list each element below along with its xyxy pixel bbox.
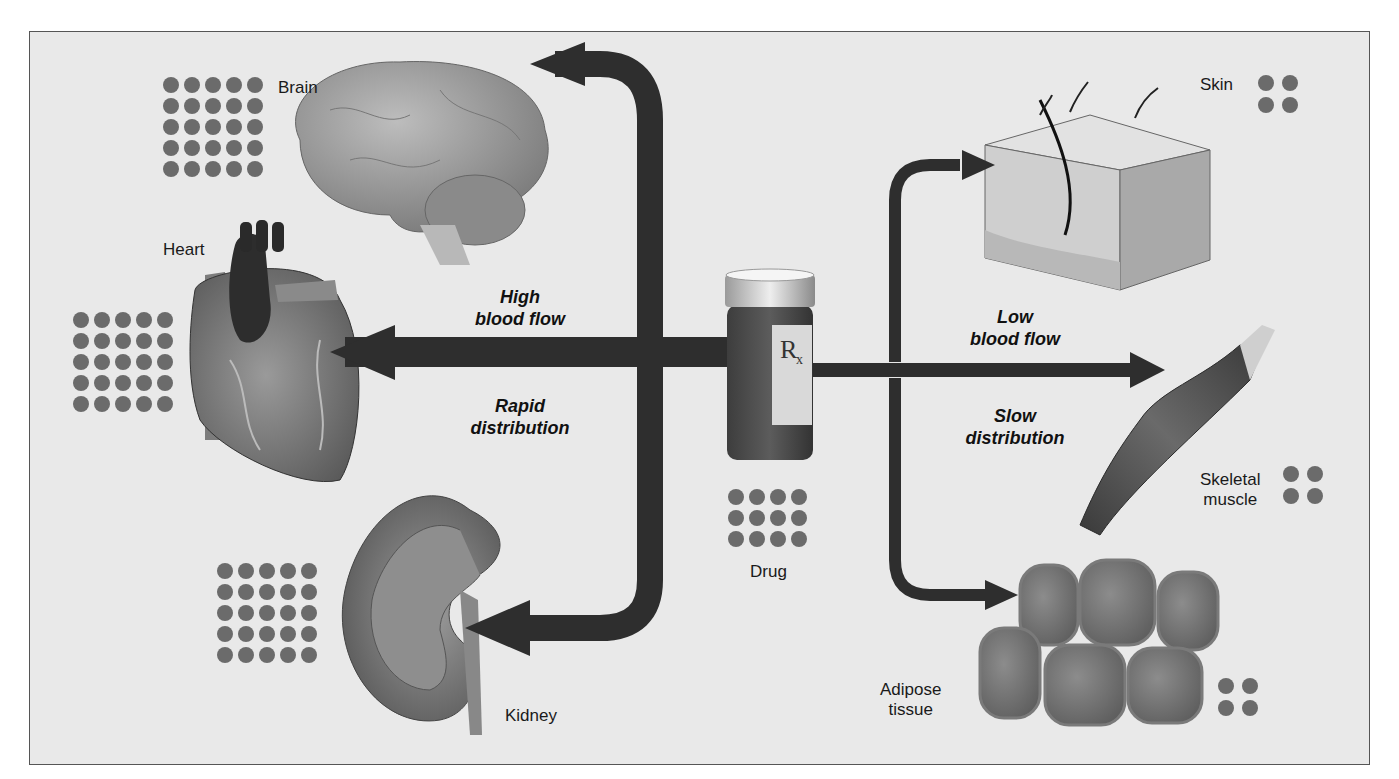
drug-molecule-dot [301, 626, 317, 642]
drug-molecule-dot [749, 510, 765, 526]
drug-molecule-dot [157, 333, 173, 349]
drug-molecule-dot [226, 119, 242, 135]
drug-molecule-dot [301, 584, 317, 600]
drug-molecule-dot [217, 605, 233, 621]
drug-molecule-dot [280, 605, 296, 621]
drug-molecule-dot [280, 563, 296, 579]
heart-concentration-dots [73, 312, 173, 412]
drug-molecule-dot [280, 584, 296, 600]
drug-molecule-dot [136, 333, 152, 349]
drug-molecule-dot [247, 77, 263, 93]
brain-label: Brain [278, 78, 318, 98]
drug-molecule-dot [184, 98, 200, 114]
drug-molecule-dot [94, 354, 110, 370]
adipose-tissue-label: Adipose tissue [880, 680, 941, 720]
drug-molecule-dot [73, 312, 89, 328]
heart-label: Heart [163, 240, 205, 260]
drug-molecule-dot [1242, 700, 1258, 716]
adipose-tissue-illustration [980, 560, 1218, 725]
slow-distribution-text: Slow distribution [915, 405, 1115, 449]
drug-molecule-dot [226, 161, 242, 177]
drug-molecule-dot [73, 354, 89, 370]
drug-molecule-dot [1307, 466, 1323, 482]
arrowhead-brain [530, 42, 585, 86]
drug-molecule-dot [136, 375, 152, 391]
drug-molecule-dot [247, 98, 263, 114]
drug-molecule-dot [728, 531, 744, 547]
skeletal-muscle-label-line2: muscle [1200, 490, 1260, 510]
drug-molecule-dot [94, 375, 110, 391]
drug-molecule-dot [259, 563, 275, 579]
drug-molecule-dot [1283, 466, 1299, 482]
drug-molecule-dot [184, 77, 200, 93]
skeletal-muscle-concentration-dots [1283, 466, 1323, 504]
drug-molecule-dot [94, 333, 110, 349]
drug-molecule-dot [136, 396, 152, 412]
drug-molecule-dot [184, 140, 200, 156]
skin-label: Skin [1200, 75, 1233, 95]
rapid-line: Rapid [420, 395, 620, 417]
distribution-line: distribution [420, 417, 620, 439]
drug-molecule-dot [259, 605, 275, 621]
drug-molecule-dot [73, 333, 89, 349]
high-flow-line1: High [420, 286, 620, 308]
drug-molecule-dot [1282, 75, 1298, 91]
drug-molecule-dot [728, 510, 744, 526]
slow-distribution-line: distribution [915, 427, 1115, 449]
drug-molecule-dot [791, 531, 807, 547]
drug-molecule-dot [115, 312, 131, 328]
drug-molecule-dot [115, 333, 131, 349]
drug-molecule-dot [205, 119, 221, 135]
drug-molecule-dot [226, 77, 242, 93]
drug-molecule-dot [238, 563, 254, 579]
drug-molecule-dot [217, 626, 233, 642]
drug-molecule-dot [301, 605, 317, 621]
low-flow-line1: Low [915, 306, 1115, 328]
drug-molecule-dot [259, 626, 275, 642]
drug-molecule-dot [770, 510, 786, 526]
arrowhead-muscle [1130, 352, 1165, 388]
drug-molecule-dot [163, 119, 179, 135]
kidney-concentration-dots [217, 563, 317, 663]
brain-concentration-dots [163, 77, 263, 177]
drug-molecule-dot [791, 489, 807, 505]
drug-molecule-dot [205, 161, 221, 177]
drug-molecule-dot [280, 626, 296, 642]
drug-molecule-dot [217, 563, 233, 579]
drug-molecule-dot [259, 584, 275, 600]
drug-molecule-dot [791, 510, 807, 526]
drug-molecule-dot [163, 98, 179, 114]
drug-molecule-dot [157, 396, 173, 412]
arrowhead-adipose [985, 580, 1018, 610]
drug-molecule-dot [1218, 678, 1234, 694]
drug-molecule-dot [1242, 678, 1258, 694]
drug-molecule-dot [163, 140, 179, 156]
drug-molecule-dot [770, 489, 786, 505]
drug-molecule-dot [94, 312, 110, 328]
brain-illustration [296, 62, 549, 265]
drug-molecule-dot [217, 647, 233, 663]
drug-molecule-dot [238, 647, 254, 663]
drug-molecule-dot [226, 98, 242, 114]
drug-molecule-dot [280, 647, 296, 663]
drug-molecule-dot [163, 161, 179, 177]
drug-molecule-dot [157, 375, 173, 391]
adipose-concentration-dots [1218, 678, 1258, 716]
drug-molecule-dot [73, 375, 89, 391]
drug-molecule-dot [749, 489, 765, 505]
drug-molecule-dot [1283, 488, 1299, 504]
drug-molecule-dot [157, 312, 173, 328]
drug-molecule-dot [770, 531, 786, 547]
drug-molecule-dot [205, 98, 221, 114]
drug-molecule-dot [1258, 75, 1274, 91]
drug-molecule-dot [184, 161, 200, 177]
drug-label: Drug [750, 562, 787, 582]
adipose-label-line1: Adipose [880, 680, 941, 700]
drug-molecule-dot [1218, 700, 1234, 716]
drug-molecule-dot [136, 312, 152, 328]
drug-molecule-dot [115, 375, 131, 391]
kidney-illustration [342, 496, 500, 735]
drug-concentration-dots [728, 489, 807, 547]
drug-molecule-dot [1258, 97, 1274, 113]
skeletal-muscle-label-line1: Skeletal [1200, 470, 1260, 490]
